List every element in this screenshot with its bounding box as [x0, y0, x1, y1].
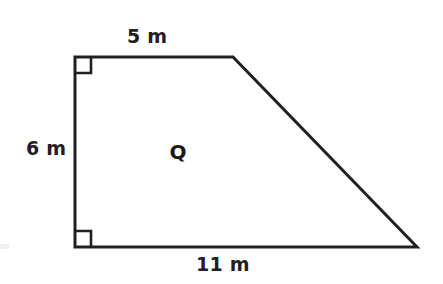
geometry-diagram: 5 m 6 m 11 m Q [0, 0, 443, 284]
trapezoid-figure [0, 0, 443, 284]
region-label-q: Q [161, 142, 195, 162]
dimension-label-top: 5 m [127, 27, 167, 46]
scan-edge-artifact [0, 244, 9, 249]
dimension-label-left: 6 m [26, 139, 66, 158]
dimension-label-bottom: 11 m [196, 255, 250, 274]
